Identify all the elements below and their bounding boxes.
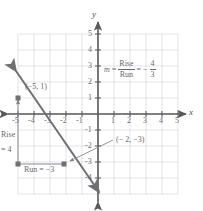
formula-negative-sign: − (143, 65, 148, 74)
y-tick--4: -4 (85, 174, 92, 182)
y-tick-5: 5 (88, 30, 92, 38)
x-tick-2: 2 (127, 117, 131, 125)
y-tick--2: -2 (85, 142, 92, 150)
x-tick-5: 5 (175, 117, 179, 125)
x-tick-3: 3 (143, 117, 147, 125)
fraction-numerator-4: 4 (150, 60, 156, 68)
rise-run-corner (16, 162, 21, 167)
y-axis-label: y (92, 10, 96, 19)
formula-equals-1: = (112, 65, 117, 74)
x-tick-1: 1 (111, 117, 115, 125)
point-b-label: (− 2, −3) (116, 136, 144, 144)
slope-formula: m = Rise Run = − 4 3 (104, 60, 156, 80)
rise-over-run-fraction: Rise Run (118, 60, 134, 80)
slope-value-fraction: 4 3 (150, 60, 156, 80)
x-tick--4: -4 (28, 117, 35, 125)
rise-label-line2: = 4 (1, 146, 12, 154)
graph-canvas (0, 0, 203, 211)
y-tick-4: 4 (88, 46, 92, 54)
run-label: Run = −3 (24, 166, 54, 174)
x-tick--2: -2 (60, 117, 67, 125)
fraction-denominator-run: Run (119, 71, 134, 79)
x-axis-label: x (189, 108, 193, 117)
formula-equals-2: = (137, 65, 142, 74)
fraction-denominator-3: 3 (150, 71, 156, 79)
x-tick--3: -3 (44, 117, 51, 125)
axis-lines (8, 22, 186, 202)
y-tick-2: 2 (88, 78, 92, 86)
formula-variable-m: m (104, 65, 110, 74)
fraction-numerator-rise: Rise (118, 60, 134, 68)
y-tick-3: 3 (88, 62, 92, 70)
y-tick-1: 1 (88, 94, 92, 102)
x-tick-4: 4 (159, 117, 163, 125)
graph-figure: y x -5 -4 -3 -2 -1 1 2 3 4 5 5 4 3 2 1 -… (0, 0, 203, 211)
y-tick--3: -3 (85, 158, 92, 166)
x-tick--1: -1 (76, 117, 83, 125)
rise-label-line1: Rise (1, 131, 15, 139)
y-tick--1: -1 (85, 126, 92, 134)
point-marker-b (62, 162, 67, 167)
point-marker-a (16, 96, 21, 101)
point-a-label: (−5, 1) (25, 83, 47, 91)
x-tick--5: -5 (12, 117, 19, 125)
